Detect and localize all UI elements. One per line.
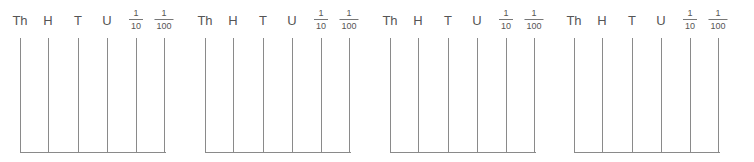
column-label: Th: [566, 13, 581, 28]
column-label: U: [102, 13, 111, 28]
fraction-numerator: 1: [501, 8, 510, 18]
abacus-3: ThHTU1101100: [370, 0, 560, 162]
fraction-bar: [708, 19, 727, 20]
fraction-numerator: 1: [685, 8, 694, 18]
column-label: T: [259, 13, 267, 28]
column-label: H: [413, 13, 422, 28]
fraction-numerator: 1: [131, 8, 140, 18]
abacus-rod: [292, 38, 293, 153]
column-fraction-label: 1100: [524, 8, 543, 31]
column-label: T: [628, 13, 636, 28]
column-fraction-label: 110: [499, 8, 513, 31]
abacus-rod: [78, 38, 79, 153]
abacus-rod: [690, 38, 691, 153]
abacus-rod: [661, 38, 662, 153]
column-fraction-label: 110: [314, 8, 328, 31]
fraction-denominator: 100: [708, 21, 727, 31]
abacus-2: ThHTU1101100: [185, 0, 375, 162]
column-fraction-label: 1100: [154, 8, 173, 31]
fraction-bar: [129, 19, 143, 20]
fraction-denominator: 10: [683, 21, 697, 31]
column-label: H: [228, 13, 237, 28]
column-fraction-label: 110: [683, 8, 697, 31]
fraction-numerator: 1: [316, 8, 325, 18]
abacus-rod: [349, 38, 350, 153]
abacus-rod: [233, 38, 234, 153]
abacus-rod: [164, 38, 165, 153]
fraction-denominator: 100: [524, 21, 543, 31]
abacus-base: [390, 152, 536, 153]
abacus-rod: [107, 38, 108, 153]
fraction-bar: [683, 19, 697, 20]
column-label: U: [287, 13, 296, 28]
abacus-base: [20, 152, 166, 153]
abacus-base: [205, 152, 351, 153]
abacus-rod: [48, 38, 49, 153]
fraction-numerator: 1: [344, 8, 353, 18]
fraction-denominator: 10: [129, 21, 143, 31]
fraction-bar: [314, 19, 328, 20]
abacus-4: ThHTU1101100: [554, 0, 744, 162]
fraction-numerator: 1: [713, 8, 722, 18]
fraction-denominator: 10: [499, 21, 513, 31]
abacus-rod: [602, 38, 603, 153]
column-fraction-label: 1100: [708, 8, 727, 31]
abacus-rod: [205, 38, 206, 153]
fraction-bar: [154, 19, 173, 20]
abacus-rod: [506, 38, 507, 153]
abacus-rod: [718, 38, 719, 153]
abacus-rod: [477, 38, 478, 153]
abacus-rod: [418, 38, 419, 153]
fraction-bar: [524, 19, 543, 20]
abacus-1: ThHTU1101100: [0, 0, 190, 162]
abacus-rod: [20, 38, 21, 153]
column-label: H: [43, 13, 52, 28]
fraction-numerator: 1: [159, 8, 168, 18]
abacus-rod: [263, 38, 264, 153]
fraction-bar: [339, 19, 358, 20]
column-label: Th: [197, 13, 212, 28]
column-label: U: [656, 13, 665, 28]
abacus-rod: [390, 38, 391, 153]
column-label: T: [444, 13, 452, 28]
fraction-denominator: 100: [339, 21, 358, 31]
fraction-numerator: 1: [529, 8, 538, 18]
column-fraction-label: 110: [129, 8, 143, 31]
column-label: T: [74, 13, 82, 28]
abacus-rod: [321, 38, 322, 153]
abacus-rod: [448, 38, 449, 153]
column-label: U: [472, 13, 481, 28]
column-label: Th: [12, 13, 27, 28]
fraction-denominator: 10: [314, 21, 328, 31]
abacus-rod: [632, 38, 633, 153]
fraction-denominator: 100: [154, 21, 173, 31]
column-label: H: [597, 13, 606, 28]
column-label: Th: [382, 13, 397, 28]
abacus-rod: [574, 38, 575, 153]
abacus-base: [574, 152, 720, 153]
abacus-rod: [534, 38, 535, 153]
fraction-bar: [499, 19, 513, 20]
column-fraction-label: 1100: [339, 8, 358, 31]
abacus-rod: [136, 38, 137, 153]
